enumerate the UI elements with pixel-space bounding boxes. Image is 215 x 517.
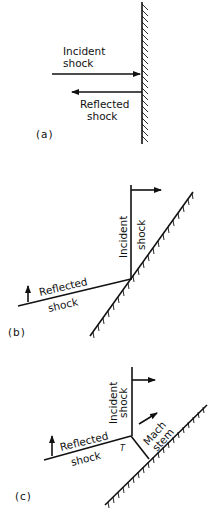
panel-tag-a: (a) [36,128,54,140]
incident-label-line1: Incident [63,45,105,57]
panel-b: Incident shock Reflected shock (b) [8,185,193,338]
incident-label: Incident [117,216,129,258]
panel-c: Incident shock Reflected shock T Mach st… [15,367,207,508]
incident-label-2: shock [135,219,147,250]
panel-a: Incident shock Reflected shock (a) [36,2,148,144]
reflected-label-line1: Reflected [80,98,129,110]
wedge-surface [90,192,193,336]
incident-label-2: shock [117,387,129,418]
triple-point-label: T [120,444,126,453]
wall-hatching [142,4,148,142]
shock-reflection-diagram: Incident shock Reflected shock (a) Incid… [0,0,215,517]
panel-tag-c: (c) [15,490,32,502]
reflected-label-line2: shock [87,110,118,122]
incident-label-line2: shock [63,57,94,69]
wedge-surface [105,405,207,505]
panel-tag-b: (b) [8,326,26,338]
mach-stem-motion-arrow [139,413,157,424]
wedge-hatching [93,193,193,338]
